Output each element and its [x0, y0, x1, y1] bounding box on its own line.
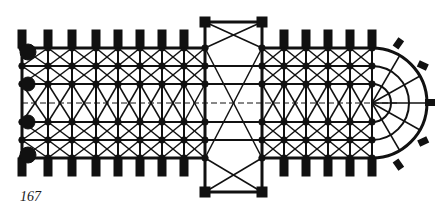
cathedral-floor-plan	[0, 0, 442, 214]
transept	[205, 22, 262, 192]
figure-number: 167	[20, 189, 41, 205]
